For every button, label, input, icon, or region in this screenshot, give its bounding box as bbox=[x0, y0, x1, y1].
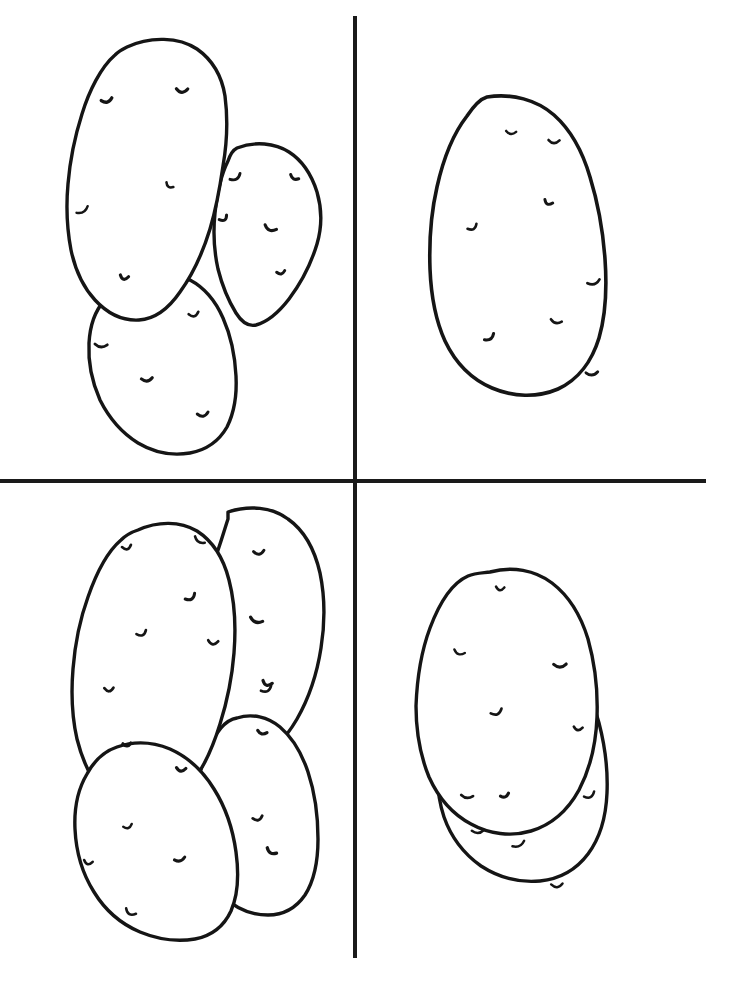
potato-drawing-artboard bbox=[0, 0, 731, 981]
quadrant-bottom-left bbox=[72, 508, 324, 940]
drawing-page: Top left quadrant Top right quadrant Bot… bbox=[0, 0, 731, 981]
